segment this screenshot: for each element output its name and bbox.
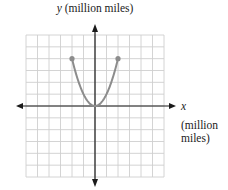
x-axis-unit-line1: (million (181, 119, 218, 132)
y-axis-unit: (million miles) (65, 2, 134, 14)
y-axis-down-arrow-icon (92, 179, 98, 187)
endpoint-dot (115, 56, 120, 61)
y-axis-label: y (million miles) (0, 2, 190, 14)
y-axis-variable: y (57, 2, 62, 14)
x-axis-unit-line2: miles) (181, 132, 218, 145)
y-axis-up-arrow-icon (92, 24, 98, 32)
x-axis-variable: x (181, 100, 218, 113)
x-axis-left-arrow-icon (16, 103, 23, 109)
x-axis-right-arrow-icon (169, 103, 176, 109)
coordinate-plane (0, 0, 228, 190)
endpoint-dot (69, 56, 74, 61)
x-axis-label: x (million miles) (181, 100, 218, 145)
